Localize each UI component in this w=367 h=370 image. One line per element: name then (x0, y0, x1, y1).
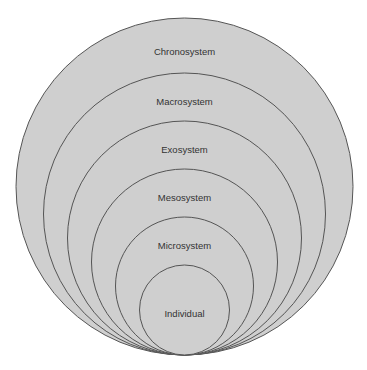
label-microsystem: Microsystem (158, 240, 211, 251)
label-macrosystem: Macrosystem (156, 96, 213, 107)
label-exosystem: Exosystem (161, 144, 208, 155)
label-mesosystem: Mesosystem (158, 192, 211, 203)
label-chronosystem: Chronosystem (154, 46, 215, 57)
label-individual: Individual (164, 308, 204, 319)
nested-systems-diagram: Chronosystem Macrosystem Exosystem Mesos… (0, 0, 367, 370)
